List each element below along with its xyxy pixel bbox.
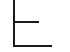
tree-connector-lines <box>0 0 70 52</box>
tree-branch-line-2 <box>13 45 52 47</box>
tree-branch-line-1 <box>13 21 39 23</box>
tree-vertical-line <box>13 0 15 47</box>
